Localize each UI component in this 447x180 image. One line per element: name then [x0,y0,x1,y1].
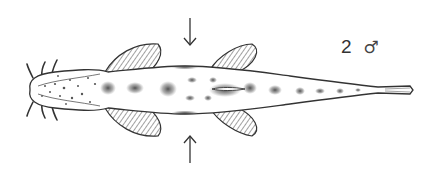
arrow-down-icon [184,18,196,45]
male-symbol-icon: ♂ [364,37,379,57]
fish-illustration: 2♂ [0,0,447,180]
arrow-up-icon [184,136,196,163]
fish-drawing [0,0,447,180]
specimen-label: 2♂ [341,36,379,58]
specimen-number: 2 [341,36,352,57]
